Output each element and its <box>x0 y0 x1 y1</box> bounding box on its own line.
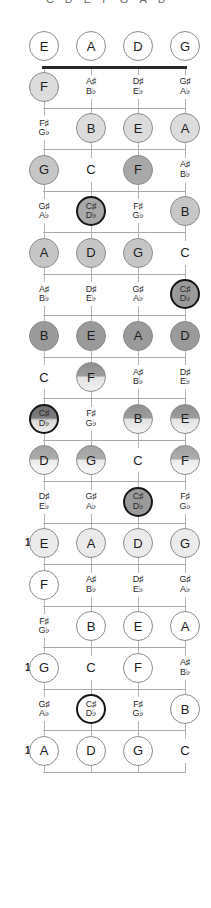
note-marker-g-fret-4[interactable]: B <box>170 196 200 226</box>
note-marker-g-fret-2[interactable]: A <box>170 113 200 143</box>
note-marker-g-fret-6[interactable]: C♯D♭ <box>170 279 200 309</box>
note-label: D <box>86 744 95 757</box>
note-label: E <box>181 412 190 425</box>
note-marker-a-fret-16[interactable]: C♯D♭ <box>76 694 106 724</box>
note-label: F <box>87 371 95 384</box>
note-label: A <box>87 537 96 550</box>
note-marker-a-fret-4[interactable]: C♯D♭ <box>76 196 106 226</box>
note-label: B <box>40 329 49 342</box>
note-marker-a-fret-13[interactable]: A♯B♭ <box>74 573 108 597</box>
legend-note: B <box>158 0 165 5</box>
note-marker-d-fret-1[interactable]: D♯E♭ <box>121 75 155 99</box>
fret-line-6 <box>43 315 186 316</box>
note-label: B <box>181 205 190 218</box>
note-marker-a-fret-17[interactable]: D <box>76 736 106 766</box>
note-label: D <box>86 246 95 259</box>
fret-line-1 <box>43 108 186 109</box>
note-marker-d-fret-3[interactable]: F <box>123 155 153 185</box>
note-marker-g-fret-9[interactable]: E <box>170 404 200 434</box>
note-marker-g-fret-5[interactable]: C <box>168 241 202 265</box>
note-marker-e-fret-12[interactable]: E <box>29 528 59 558</box>
note-marker-g-fret-17[interactable]: C <box>168 739 202 763</box>
note-marker-e-fret-10[interactable]: D <box>29 445 59 475</box>
note-label: A <box>40 744 49 757</box>
note-marker-g-fret-13[interactable]: G♯A♭ <box>168 573 202 597</box>
note-label: F <box>40 578 48 591</box>
note-marker-a-fret-8[interactable]: F <box>76 362 106 392</box>
note-marker-g-fret-11[interactable]: F♯G♭ <box>168 490 202 514</box>
note-marker-e-fret-13[interactable]: F <box>29 570 59 600</box>
note-marker-d-fret-2[interactable]: E <box>123 113 153 143</box>
note-marker-e-fret-9[interactable]: C♯D♭ <box>29 404 59 434</box>
note-marker-g-fret-7[interactable]: D <box>170 321 200 351</box>
note-marker-d-fret-12[interactable]: D <box>123 528 153 558</box>
note-marker-d-fret-14[interactable]: E <box>123 611 153 641</box>
note-label-flat: B♭ <box>180 170 190 180</box>
note-marker-e-fret-2[interactable]: F♯G♭ <box>27 116 61 140</box>
fret-line-15 <box>43 689 186 690</box>
note-label-flat: E♭ <box>86 294 96 304</box>
note-label-flat: E♭ <box>39 502 49 512</box>
note-marker-e-fret-17[interactable]: A <box>29 736 59 766</box>
note-marker-e-fret-6[interactable]: A♯B♭ <box>27 282 61 306</box>
note-label: E <box>87 329 96 342</box>
note-marker-d-fret-6[interactable]: G♯A♭ <box>121 282 155 306</box>
note-marker-a-fret-2[interactable]: B <box>76 113 106 143</box>
note-label: G <box>133 246 143 259</box>
note-marker-d-fret-11[interactable]: C♯D♭ <box>123 487 153 517</box>
note-marker-g-fret-14[interactable]: A <box>170 611 200 641</box>
note-marker-g-fret-15[interactable]: A♯B♭ <box>168 656 202 680</box>
note-label-flat: E♭ <box>180 377 190 387</box>
note-label-flat: B♭ <box>39 294 49 304</box>
note-marker-a-fret-10[interactable]: G <box>76 445 106 475</box>
note-marker-a-fret-3[interactable]: C <box>74 158 108 182</box>
note-marker-g-fret-12[interactable]: G <box>170 528 200 558</box>
note-marker-a-fret-14[interactable]: B <box>76 611 106 641</box>
note-marker-a-fret-12[interactable]: A <box>76 528 106 558</box>
note-marker-d-fret-5[interactable]: G <box>123 238 153 268</box>
note-marker-e-fret-1[interactable]: F <box>29 72 59 102</box>
note-marker-d-fret-15[interactable]: F <box>123 653 153 683</box>
note-marker-d-fret-8[interactable]: A♯B♭ <box>121 365 155 389</box>
note-marker-g-fret-10[interactable]: F <box>170 445 200 475</box>
note-marker-g-fret-3[interactable]: A♯B♭ <box>168 158 202 182</box>
note-label: F <box>134 661 142 674</box>
note-marker-a-fret-5[interactable]: D <box>76 238 106 268</box>
note-marker-e-fret-8[interactable]: C <box>27 365 61 389</box>
note-label-flat: A♭ <box>39 211 49 221</box>
note-marker-g-fret-0[interactable]: G <box>170 31 200 61</box>
note-marker-d-fret-13[interactable]: D♯E♭ <box>121 573 155 597</box>
note-marker-d-fret-10[interactable]: C <box>121 448 155 472</box>
note-marker-d-fret-7[interactable]: A <box>123 321 153 351</box>
note-marker-e-fret-15[interactable]: G <box>29 653 59 683</box>
note-marker-d-fret-0[interactable]: D <box>123 31 153 61</box>
note-marker-e-fret-16[interactable]: G♯A♭ <box>27 697 61 721</box>
note-marker-a-fret-11[interactable]: G♯A♭ <box>74 490 108 514</box>
note-marker-e-fret-3[interactable]: G <box>29 155 59 185</box>
note-marker-a-fret-15[interactable]: C <box>74 656 108 680</box>
note-marker-e-fret-0[interactable]: E <box>29 31 59 61</box>
fret-line-11 <box>43 523 186 524</box>
note-marker-a-fret-1[interactable]: A♯B♭ <box>74 75 108 99</box>
note-marker-a-fret-6[interactable]: D♯E♭ <box>74 282 108 306</box>
note-marker-a-fret-9[interactable]: F♯G♭ <box>74 407 108 431</box>
note-marker-g-fret-8[interactable]: D♯E♭ <box>168 365 202 389</box>
note-marker-d-fret-9[interactable]: B <box>123 404 153 434</box>
note-label: C <box>180 744 189 757</box>
note-marker-d-fret-4[interactable]: F♯G♭ <box>121 199 155 223</box>
note-label: G <box>180 40 190 53</box>
legend-note: A <box>139 0 146 5</box>
note-marker-e-fret-5[interactable]: A <box>29 238 59 268</box>
note-marker-d-fret-16[interactable]: F♯G♭ <box>121 697 155 721</box>
note-marker-g-fret-16[interactable]: B <box>170 694 200 724</box>
note-marker-d-fret-17[interactable]: G <box>123 736 153 766</box>
note-marker-e-fret-14[interactable]: F♯G♭ <box>27 614 61 638</box>
note-marker-e-fret-11[interactable]: D♯E♭ <box>27 490 61 514</box>
note-marker-a-fret-0[interactable]: A <box>76 31 106 61</box>
note-label-flat: G♭ <box>39 128 50 138</box>
fret-line-17 <box>43 772 186 773</box>
note-marker-g-fret-1[interactable]: G♯A♭ <box>168 75 202 99</box>
note-marker-e-fret-4[interactable]: G♯A♭ <box>27 199 61 223</box>
note-marker-a-fret-7[interactable]: E <box>76 321 106 351</box>
note-marker-e-fret-7[interactable]: B <box>29 321 59 351</box>
